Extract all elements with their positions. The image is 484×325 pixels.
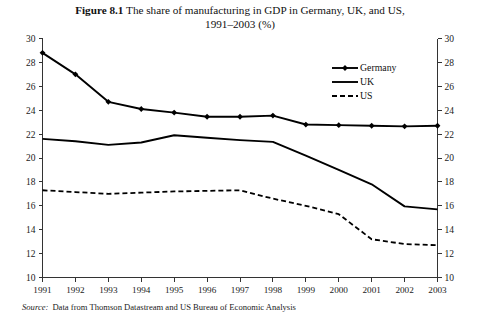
line-chart: 1012141618202224262830 10121416182022242…: [0, 0, 484, 300]
x-axis-tick-label: 1995: [165, 285, 184, 295]
y-axis-right-tick-label: 28: [445, 58, 455, 68]
y-axis-left-tick-label: 28: [26, 58, 36, 68]
x-axis-ticks: 1991199219931994199519961997199819992000…: [33, 278, 447, 295]
legend-label-germany: Germany: [360, 62, 397, 73]
x-axis-tick-label: 1998: [264, 285, 283, 295]
y-axis-left-tick-label: 22: [26, 130, 36, 140]
x-axis-tick-label: 2000: [330, 285, 349, 295]
x-axis-tick-label: 1993: [99, 285, 118, 295]
y-axis-left-tick-label: 14: [26, 225, 36, 235]
figure-container: Figure 8.1 The share of manufacturing in…: [0, 0, 484, 325]
series-marker-germany: [237, 114, 243, 120]
y-axis-left-tick-label: 30: [26, 34, 36, 44]
y-axis-right-tick-label: 22: [445, 130, 455, 140]
source-note: Source:Data from Thomson Datastream and …: [22, 302, 296, 312]
source-label: Source:: [22, 302, 48, 312]
series-marker-germany: [138, 106, 144, 112]
legend-marker-germany: [342, 65, 348, 71]
x-axis-tick-label: 2001: [362, 285, 381, 295]
y-axis-left-tick-label: 18: [26, 177, 36, 187]
y-axis-right-tick-label: 18: [445, 177, 455, 187]
chart-plot-area: 1012141618202224262830 10121416182022242…: [0, 0, 484, 300]
x-axis-tick-label: 2002: [395, 285, 414, 295]
series-line-uk: [43, 135, 438, 209]
y-axis-left-tick-label: 24: [26, 106, 36, 116]
series-line-us: [43, 190, 438, 245]
x-axis-tick-label: 1992: [66, 285, 85, 295]
x-axis-tick-label: 1996: [198, 285, 217, 295]
y-axis-right-tick-label: 14: [445, 225, 455, 235]
x-axis-tick-label: 1994: [132, 285, 151, 295]
series-marker-germany: [435, 123, 441, 129]
series-marker-germany: [303, 122, 309, 128]
y-axis-right-tick-label: 20: [445, 153, 455, 163]
series-marker-germany: [369, 123, 375, 129]
source-text: Data from Thomson Datastream and US Bure…: [52, 302, 296, 312]
y-axis-right-tick-label: 12: [445, 249, 455, 259]
series-marker-germany: [402, 123, 408, 129]
y-axis-left-tick-label: 20: [26, 153, 36, 163]
y-axis-right-ticks: 1012141618202224262830: [438, 34, 455, 283]
series-marker-germany: [336, 122, 342, 128]
chart-legend: GermanyUKUS: [332, 62, 397, 101]
data-series-layer: [40, 50, 441, 245]
y-axis-left-tick-label: 10: [26, 273, 36, 283]
y-axis-right-tick-label: 24: [445, 106, 455, 116]
y-axis-right-tick-label: 30: [445, 34, 455, 44]
y-axis-left-tick-label: 26: [26, 82, 36, 92]
series-marker-germany: [270, 113, 276, 119]
y-axis-left-ticks: 1012141618202224262830: [26, 34, 43, 283]
y-axis-left-tick-label: 16: [26, 201, 36, 211]
x-axis-tick-label: 1991: [33, 285, 52, 295]
series-marker-germany: [171, 110, 177, 116]
legend-label-uk: UK: [360, 76, 374, 87]
x-axis-tick-label: 1997: [231, 285, 250, 295]
legend-label-us: US: [360, 90, 373, 101]
y-axis-left-tick-label: 12: [26, 249, 36, 259]
x-axis-tick-label: 2003: [428, 285, 447, 295]
x-axis-tick-label: 1999: [297, 285, 316, 295]
y-axis-right-tick-label: 10: [445, 273, 455, 283]
y-axis-right-tick-label: 16: [445, 201, 455, 211]
y-axis-right-tick-label: 26: [445, 82, 455, 92]
series-marker-germany: [204, 114, 210, 120]
